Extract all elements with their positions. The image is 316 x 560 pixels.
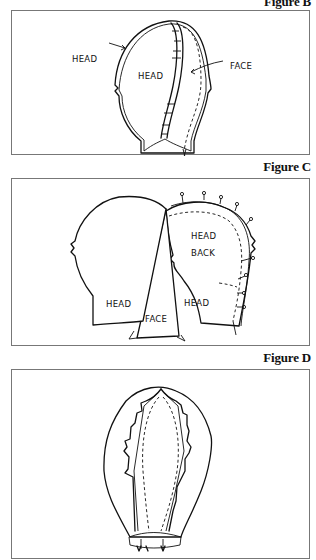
label-head-back-1: HEAD [191, 231, 216, 241]
label-head-outer: HEAD [72, 54, 97, 64]
figure-d-caption: Figure D [263, 350, 311, 366]
label-head-back-2: BACK [191, 248, 215, 258]
figure-c-panel: HEAD FACE HEAD HEAD BACK [11, 178, 310, 346]
figure-c-caption: Figure C [263, 159, 311, 175]
label-face: FACE [230, 61, 252, 71]
figure-d-panel [11, 369, 310, 559]
figure-b-diagram: HEAD HEAD FACE [12, 11, 311, 156]
label-face-c: FACE [145, 314, 167, 324]
figure-b-caption: Figure B [264, 0, 311, 10]
figure-d-diagram [12, 370, 311, 560]
label-head-right: HEAD [184, 298, 209, 308]
label-head-left: HEAD [106, 299, 131, 309]
figure-c-diagram: HEAD FACE HEAD HEAD BACK [12, 179, 311, 347]
figure-b-panel: HEAD HEAD FACE [11, 10, 310, 155]
label-head-inner: HEAD [138, 71, 163, 81]
